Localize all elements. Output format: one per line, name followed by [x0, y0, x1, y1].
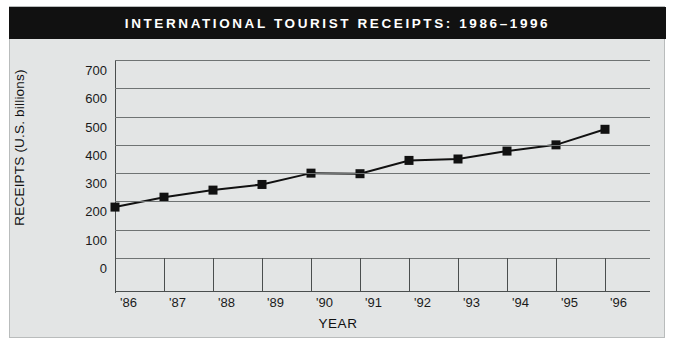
gridline	[115, 201, 650, 202]
gridline	[115, 60, 650, 61]
x-tick	[115, 258, 116, 291]
x-tick	[556, 258, 557, 291]
chart-title-banner: INTERNATIONAL TOURIST RECEIPTS: 1986–199…	[9, 7, 666, 39]
y-tick-label: 100	[63, 233, 107, 248]
x-tick	[605, 258, 606, 291]
x-tick	[262, 258, 263, 291]
x-tick-label: '87	[169, 295, 186, 310]
y-tick-label: 400	[63, 148, 107, 163]
x-tick-label: '93	[463, 295, 480, 310]
x-tick-label: '96	[610, 295, 627, 310]
y-axis-label: RECEIPTS (U.S. billions)	[12, 33, 27, 263]
x-axis-label: YEAR	[0, 316, 676, 331]
data-point-marker	[454, 155, 463, 164]
data-point-marker	[160, 193, 169, 202]
x-tick	[458, 258, 459, 291]
gridline	[115, 145, 650, 146]
x-tick-label: '91	[365, 295, 382, 310]
x-tick	[164, 258, 165, 291]
line-series	[115, 60, 650, 258]
series-line	[115, 129, 605, 207]
chart-figure: INTERNATIONAL TOURIST RECEIPTS: 1986–199…	[0, 0, 676, 347]
x-tick-label: '94	[512, 295, 529, 310]
x-tick	[311, 258, 312, 291]
data-point-marker	[111, 203, 120, 212]
x-tick	[409, 258, 410, 291]
y-tick-label: 500	[63, 120, 107, 135]
y-tick-label: 600	[63, 91, 107, 106]
y-tick-label: 300	[63, 176, 107, 191]
data-point-marker	[258, 180, 267, 189]
data-point-marker	[209, 186, 218, 195]
gridline	[115, 117, 650, 118]
gridline	[115, 230, 650, 231]
data-point-marker	[405, 156, 414, 165]
x-tick-label: '88	[218, 295, 235, 310]
x-tick-label: '95	[561, 295, 578, 310]
x-tick	[360, 258, 361, 291]
x-tick-label: '90	[316, 295, 333, 310]
gridline	[115, 88, 650, 89]
x-tick	[213, 258, 214, 291]
x-tick-label: '92	[414, 295, 431, 310]
y-tick-label: 200	[63, 204, 107, 219]
data-point-marker	[601, 125, 610, 134]
gridline	[115, 258, 650, 259]
gridline	[115, 173, 650, 174]
x-tick	[507, 258, 508, 291]
x-tick-label: '86	[120, 295, 137, 310]
x-tick-label: '89	[267, 295, 284, 310]
chart-title: INTERNATIONAL TOURIST RECEIPTS: 1986–199…	[125, 16, 550, 31]
data-point-marker	[503, 147, 512, 156]
y-tick-label: 0	[63, 261, 107, 276]
y-tick-label: 700	[63, 63, 107, 78]
x-axis-line	[115, 291, 650, 292]
